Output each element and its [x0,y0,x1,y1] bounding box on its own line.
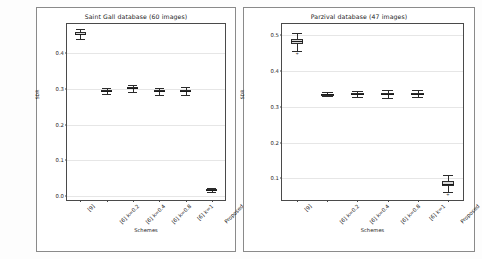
x-tick-label: [6] k=0.4 [369,203,391,225]
y-tick-label: 0.4 [271,68,279,74]
x-tick-mark [297,200,298,202]
x-tick-mark [212,200,213,202]
y-tick-label: 0.1 [56,157,64,163]
x-tick-mark [80,200,81,202]
y-tick-label: 0.4 [56,50,64,56]
box-plot: + [282,24,463,200]
x-tick-mark [159,200,160,202]
x-tick-label: [6] k=0.8 [399,203,421,225]
x-tick-mark [357,200,358,202]
x-axis-label-left: Schemes [67,227,225,233]
x-tick-label: [6] k=1 [195,203,213,221]
x-tick-label: Proposed [459,203,480,224]
y-tick-label: 0.1 [271,175,279,181]
panel-title-left: Saint Gall database (60 images) [37,13,235,20]
y-tick-label: 0.3 [56,86,64,92]
panel-saint-gall: Saint Gall database (60 images) 0.00.10.… [36,7,236,252]
axes-parzival: 0.10.20.30.40.5[9]+[6] k=0.2[6] k=0.4[6]… [281,23,464,201]
y-tick-label: 0.3 [271,104,279,110]
outlier-marker: + [446,193,449,197]
x-tick-mark [107,200,108,202]
whisker-cap [443,175,454,176]
x-tick-label: [9] [86,203,96,213]
panel-parzival: Parzival database (47 images) 0.10.20.30… [243,7,475,252]
y-axis-label-left: SDR [35,75,40,115]
y-axis-label-right: SDR [240,75,245,115]
x-tick-mark [186,200,187,202]
figure: Saint Gall database (60 images) 0.00.10.… [0,0,482,259]
x-tick-label: [9] [303,203,313,213]
y-tick-label: 0.2 [56,122,64,128]
box-plot [67,24,225,200]
x-tick-label: [6] k=0.8 [171,203,193,225]
x-tick-label: [6] k=0.2 [339,203,361,225]
y-tick-label: 0.0 [56,193,64,199]
x-tick-label: [6] k=0.4 [144,203,166,225]
panel-title-right: Parzival database (47 images) [244,13,474,20]
x-tick-label: [6] k=0.2 [118,203,140,225]
y-tick-label: 0.2 [271,140,279,146]
y-tick-label: 0.5 [271,32,279,38]
whisker-cap [207,188,216,189]
whisker-cap [207,192,216,193]
axes-saint-gall: 0.00.10.20.30.4[9][6] k=0.2[6] k=0.4[6] … [66,23,226,201]
x-axis-label-right: Schemes [282,227,463,233]
median-line [442,184,455,185]
x-tick-mark [133,200,134,202]
x-tick-mark [327,200,328,202]
x-tick-mark [418,200,419,202]
x-tick-mark [448,200,449,202]
x-tick-label: Proposed [223,203,244,224]
x-tick-mark [388,200,389,202]
x-tick-label: [6] k=1 [428,203,446,221]
